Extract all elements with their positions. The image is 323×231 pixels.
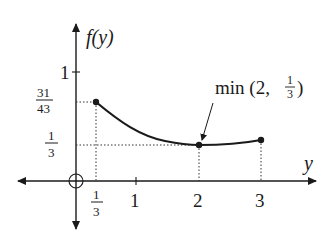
y-tick-1: 1 (60, 62, 70, 83)
y-tick-one-third: 1 3 (45, 128, 58, 160)
function-curve (96, 102, 261, 145)
svg-text:min (2,: min (2, (215, 77, 270, 99)
svg-text:): ) (297, 77, 303, 99)
svg-text:3: 3 (93, 204, 100, 219)
function-plot: f(y) y 1 31 43 1 3 1 3 1 2 3 min (2, 1 3… (0, 0, 323, 231)
svg-text:3: 3 (48, 145, 55, 160)
x-tick-one-third: 1 3 (91, 187, 103, 219)
x-tick-1: 1 (130, 190, 140, 211)
annotation-arrow (202, 103, 213, 140)
f-axis-label: f(y) (86, 26, 114, 49)
point-end (258, 137, 264, 143)
svg-text:31: 31 (37, 85, 50, 100)
axis-ticks (72, 72, 136, 185)
svg-text:43: 43 (37, 101, 50, 116)
x-tick-3: 3 (255, 190, 265, 211)
svg-text:1: 1 (93, 187, 100, 202)
y-tick-31-43: 31 43 (36, 85, 53, 116)
svg-text:1: 1 (48, 128, 55, 143)
point-minimum (196, 142, 202, 148)
minimum-annotation: min (2, 1 3 ) (215, 73, 303, 101)
svg-text:3: 3 (287, 87, 293, 101)
point-start (93, 99, 99, 105)
svg-text:1: 1 (287, 73, 293, 87)
y-axis-label: y (302, 152, 313, 175)
x-tick-2: 2 (193, 190, 203, 211)
